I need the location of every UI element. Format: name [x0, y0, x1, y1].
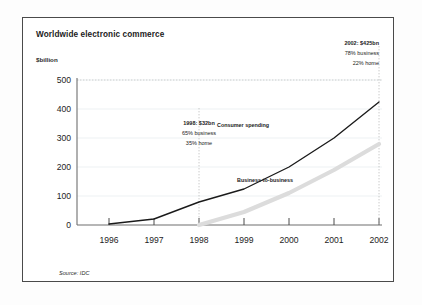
source-note: Source: IDC	[59, 270, 89, 276]
annotation-1998-line2: 65% business	[182, 130, 216, 136]
series-label-business-to-business: Business-to-business	[237, 177, 293, 183]
plot-area: 500 400 300 200 100 0	[37, 68, 382, 268]
y-tick-300: 300	[57, 133, 72, 143]
y-tick-0: 0	[66, 220, 71, 230]
line-chart-svg: 500 400 300 200 100 0	[37, 68, 382, 268]
y-tick-100: 100	[57, 191, 72, 201]
x-tick-1996: 1996	[99, 235, 118, 245]
x-tick-2000: 2000	[279, 235, 298, 245]
x-tick-1999: 1999	[234, 235, 253, 245]
x-tick-labels: 1996 1997 1998 1999 2000 2001 2002	[99, 235, 388, 245]
series-line-business-to-business	[199, 144, 379, 225]
chart-frame: Worldwide electronic commerce $billion	[22, 17, 394, 282]
x-tick-2001: 2001	[324, 235, 343, 245]
annotation-2002-line2: 78% business	[345, 50, 379, 56]
y-tick-400: 400	[57, 104, 72, 114]
y-tick-200: 200	[57, 162, 72, 172]
series-line-consumer-spending	[109, 102, 379, 224]
chart-title: Worldwide electronic commerce	[36, 30, 164, 39]
page-background: Worldwide electronic commerce $billion	[0, 0, 422, 305]
gridlines	[77, 80, 382, 196]
annotation-1998: 1998: $32bn 65% business 35% home	[182, 120, 216, 146]
y-tick-labels: 500 400 300 200 100 0	[57, 75, 72, 230]
annotation-2002-line1: 2002: $425bn	[344, 40, 379, 46]
series-label-consumer-spending: Consumer spending	[217, 122, 269, 128]
y-axis-title: $billion	[36, 56, 58, 63]
annotation-1998-line1: 1998: $32bn	[183, 120, 215, 126]
y-tick-500: 500	[57, 75, 72, 85]
annotation-1998-line3: 35% home	[186, 140, 212, 146]
annotation-2002-line3: 22% home	[353, 60, 379, 66]
annotation-2002: 2002: $425bn 78% business 22% home	[344, 40, 379, 66]
x-tick-1998: 1998	[189, 235, 208, 245]
x-tick-1997: 1997	[144, 235, 163, 245]
x-tick-2002: 2002	[369, 235, 388, 245]
